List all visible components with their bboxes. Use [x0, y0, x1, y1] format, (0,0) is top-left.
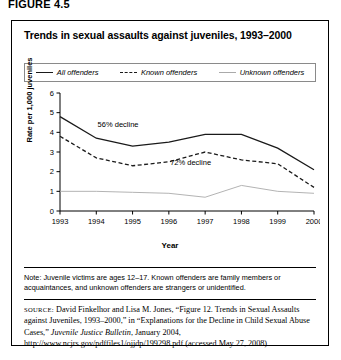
svg-text:72% decline: 72% decline — [170, 158, 211, 167]
svg-text:1999: 1999 — [269, 217, 286, 226]
legend-label-unknown-offenders: Unknown offenders — [240, 68, 305, 77]
svg-text:4: 4 — [50, 128, 54, 137]
chart-source: SOURCE: David Finkelhor and Lisa M. Jone… — [24, 304, 320, 349]
svg-text:1997: 1997 — [197, 217, 214, 226]
chart-axes — [57, 93, 315, 215]
plot-area: Rate per 1,000 juveniles 0123456 1993199… — [20, 87, 320, 262]
legend-swatch-dashed-icon — [120, 70, 137, 76]
legend-item-all-offenders: All offenders — [36, 68, 99, 77]
legend-label-all-offenders: All offenders — [57, 68, 99, 77]
line-chart-svg: 0123456 19931994199519961997199819992000… — [20, 87, 320, 239]
figure-label: FIGURE 4.5 — [8, 0, 70, 10]
svg-text:1998: 1998 — [233, 217, 250, 226]
svg-text:3: 3 — [50, 148, 54, 157]
svg-text:2000: 2000 — [306, 217, 320, 226]
svg-text:1: 1 — [50, 187, 54, 196]
svg-text:6: 6 — [50, 89, 54, 98]
chart-legend: All offenders Known offenders Unknown of… — [24, 63, 316, 82]
svg-text:0: 0 — [50, 207, 54, 216]
legend-swatch-solid-icon — [36, 70, 53, 76]
note-divider-top — [24, 267, 316, 268]
svg-text:1994: 1994 — [88, 217, 105, 226]
x-axis-title: Year — [20, 241, 320, 250]
figure-container: FIGURE 4.5 Trends in sexual assaults aga… — [0, 0, 341, 360]
svg-text:1995: 1995 — [124, 217, 141, 226]
legend-item-unknown-offenders: Unknown offenders — [219, 68, 305, 77]
svg-text:1993: 1993 — [52, 217, 69, 226]
svg-text:5: 5 — [50, 108, 54, 117]
chart-note: Note: Juvenile victims are ages 12–17. K… — [24, 273, 318, 293]
y-tick-labels: 0123456 — [50, 89, 54, 216]
legend-item-known-offenders: Known offenders — [120, 68, 197, 77]
svg-text:2: 2 — [50, 167, 54, 176]
source-label: SOURCE: — [24, 306, 54, 313]
svg-text:1996: 1996 — [161, 217, 178, 226]
x-tick-labels: 19931994199519961997199819992000 — [52, 217, 320, 226]
chart-title: Trends in sexual assaults against juveni… — [24, 29, 292, 41]
legend-swatch-light-icon — [219, 70, 236, 76]
source-italic-title: Juvenile Justice Bulletin — [51, 328, 131, 337]
note-divider-bottom — [24, 299, 316, 300]
svg-text:56% decline: 56% decline — [98, 120, 139, 129]
legend-label-known-offenders: Known offenders — [141, 68, 197, 77]
chart-panel: Trends in sexual assaults against juveni… — [11, 20, 329, 346]
